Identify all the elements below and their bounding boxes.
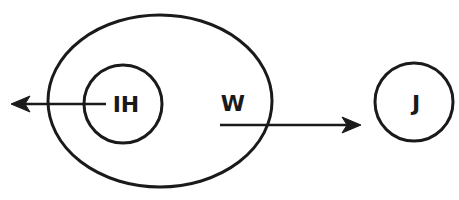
arrow-ih-left — [11, 96, 106, 112]
set-diagram: IH W J — [0, 0, 459, 200]
label-w: W — [221, 91, 245, 116]
label-j: J — [410, 91, 420, 116]
label-ih: IH — [113, 92, 140, 117]
arrow-w-to-j — [220, 117, 361, 133]
